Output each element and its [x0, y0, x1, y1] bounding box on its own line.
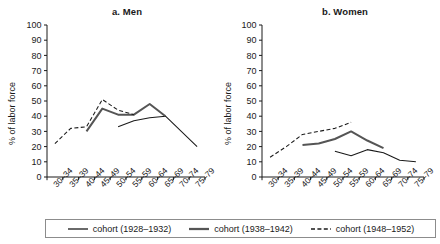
series-line	[118, 116, 197, 146]
figure-root: a. Men % of labor force 0102030405060708…	[0, 0, 440, 244]
y-axis-tick-label: 90	[31, 35, 41, 45]
legend-cohort-1938-1942: cohort (1938–1942)	[188, 224, 293, 234]
y-axis-tick-label: 90	[246, 35, 256, 45]
series-line	[335, 150, 416, 162]
panel-a-xtick-labels: 30–3435–3940–4445–4950–5455–5960–6465–69…	[0, 180, 220, 222]
legend-line-swatch	[67, 225, 89, 233]
panels-container: a. Men % of labor force 0102030405060708…	[0, 0, 440, 216]
y-axis-tick-label: 40	[31, 111, 41, 121]
legend-line-swatch	[310, 225, 332, 233]
panel-men: a. Men % of labor force 0102030405060708…	[0, 0, 220, 216]
y-axis-tick-label: 70	[31, 66, 41, 76]
y-axis-tick-label: 10	[246, 157, 256, 167]
legend-cohort-1948-1952: cohort (1948–1952)	[310, 224, 415, 234]
y-axis-tick-label: 80	[246, 51, 256, 61]
y-axis-tick-label: 70	[246, 66, 256, 76]
panel-women: b. Women % of labor force 01020304050607…	[220, 0, 440, 216]
legend-label: cohort (1928–1932)	[93, 224, 172, 234]
y-axis-tick-label: 60	[246, 81, 256, 91]
panel-b-xtick-labels: 30–3435–3940–4445–4950–5455–5960–6465–69…	[220, 180, 440, 222]
legend-label: cohort (1938–1942)	[214, 224, 293, 234]
legend-cohort-1928-1932: cohort (1928–1932)	[67, 224, 172, 234]
chart-legend: cohort (1928–1932)cohort (1938–1942)coho…	[45, 219, 436, 238]
y-axis-tick-label: 30	[246, 127, 256, 137]
y-axis-tick-label: 100	[241, 20, 256, 30]
y-axis-tick-label: 50	[246, 96, 256, 106]
y-axis-tick-label: 40	[246, 111, 256, 121]
y-axis-tick-label: 60	[31, 81, 41, 91]
y-axis-tick-label: 20	[246, 142, 256, 152]
y-axis-tick-label: 100	[26, 20, 41, 30]
legend-label: cohort (1948–1952)	[336, 224, 415, 234]
y-axis-tick-label: 30	[31, 127, 41, 137]
y-axis-tick-label: 80	[31, 51, 41, 61]
legend-line-swatch	[188, 225, 210, 233]
y-axis-tick-label: 50	[31, 96, 41, 106]
y-axis-tick-label: 20	[31, 142, 41, 152]
series-line	[303, 131, 384, 148]
y-axis-tick-label: 10	[31, 157, 41, 167]
